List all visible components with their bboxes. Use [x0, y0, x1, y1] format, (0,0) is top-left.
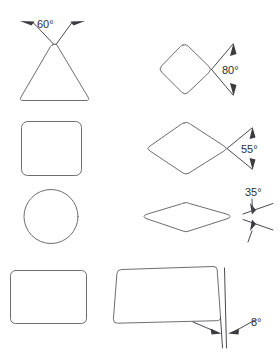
arrow-head-60-left — [20, 21, 35, 26]
angle-label-80: 80° — [222, 64, 239, 76]
tick-line-35-upper — [252, 199, 253, 213]
rounded-triangle-shape — [20, 44, 88, 101]
angle-label-8: 8° — [251, 316, 262, 328]
angle-label-60: 60° — [37, 18, 54, 30]
shape-group-rectangle-tilted — [113, 266, 226, 348]
arrow-head-80-upper — [230, 43, 237, 56]
leader-line-35-lower — [243, 220, 273, 231]
rounded-diamond-shape — [160, 45, 211, 95]
rounded-rectangle-shape — [11, 271, 87, 324]
shape-group-square — [22, 122, 82, 176]
vertical-reference-line — [225, 268, 227, 348]
edge-extension-line — [221, 317, 223, 348]
shape-group-rhombus-55 — [148, 122, 226, 174]
leader-line-60-right — [56, 23, 72, 45]
shape-group-rectangle — [11, 271, 87, 324]
angle-label-35: 35° — [245, 186, 262, 198]
arrow-head-35-lower — [250, 220, 256, 232]
technical-drawing: 60° 80° 55° — [0, 0, 280, 355]
annotation-55-degrees: 55° — [227, 127, 258, 170]
rounded-square-shape — [22, 122, 82, 176]
annotation-60-degrees: 60° — [20, 18, 85, 45]
arrow-head-35-upper — [250, 203, 256, 215]
arrow-head-8-left — [211, 329, 222, 335]
annotation-80-degrees: 80° — [212, 43, 239, 96]
shape-group-triangle — [20, 44, 88, 101]
leader-line-8-left — [193, 322, 213, 331]
rounded-rectangle-tilted-shape — [113, 266, 220, 323]
arrow-head-80-lower — [230, 83, 237, 96]
rounded-rhombus-flat-shape — [144, 203, 230, 232]
angle-label-55: 55° — [241, 143, 258, 155]
rounded-rhombus-wide-shape — [148, 122, 226, 174]
tick-line-35-lower — [248, 231, 252, 242]
diagram-canvas: 60° 80° 55° — [0, 0, 280, 355]
shape-group-rhombus-35 — [144, 203, 230, 232]
leader-line-35-upper — [243, 204, 273, 215]
arrow-head-8-right — [228, 329, 239, 335]
shape-group-circle — [24, 190, 78, 244]
annotation-35-degrees: 35° — [243, 186, 273, 242]
circle-shape — [24, 190, 78, 244]
shape-group-diamond-80 — [160, 45, 211, 95]
arrow-head-60-right — [71, 21, 86, 26]
annotation-8-degrees: 8° — [193, 316, 262, 335]
